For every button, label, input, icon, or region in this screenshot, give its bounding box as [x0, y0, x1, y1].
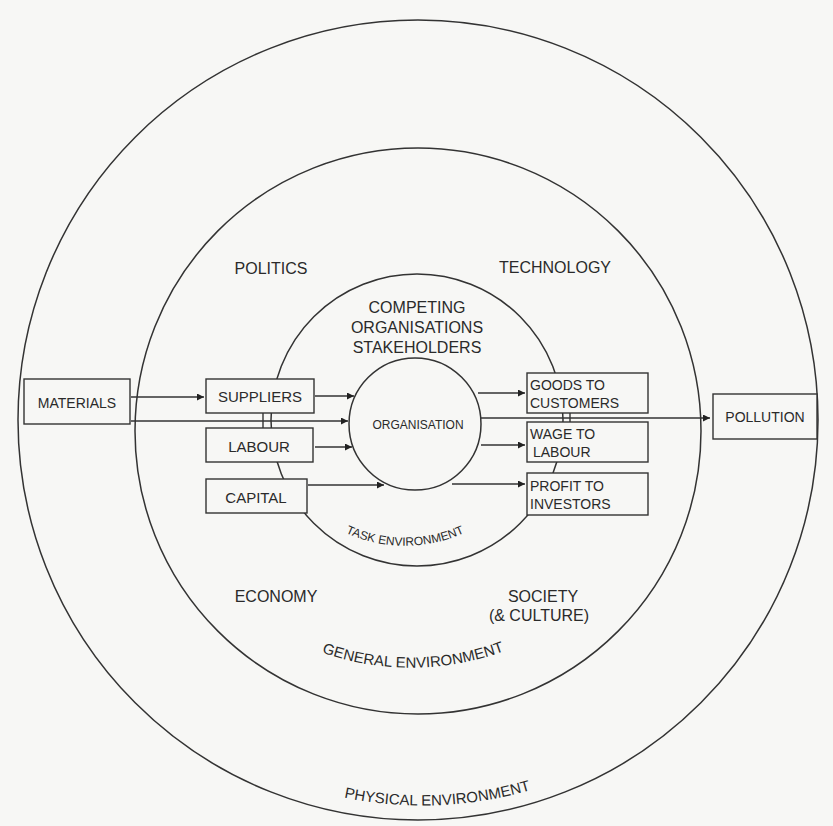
svg-text:MATERIALS: MATERIALS: [38, 395, 116, 411]
svg-text:WAGE TO: WAGE TO: [530, 426, 595, 442]
profit-to-investors-box: PROFIT TO INVESTORS: [527, 473, 648, 515]
svg-text:INVESTORS: INVESTORS: [530, 496, 611, 512]
pollution-box: POLLUTION: [713, 394, 817, 439]
svg-text:CAPITAL: CAPITAL: [225, 489, 286, 506]
organisation-label: ORGANISATION: [372, 418, 463, 432]
organisation-environment-diagram: MATERIALS SUPPLIERS LABOUR CAPITAL GOODS…: [0, 0, 833, 826]
task-factor-competing: COMPETING: [369, 299, 466, 316]
wage-to-labour-box: WAGE TO LABOUR: [527, 422, 648, 462]
materials-box: MATERIALS: [24, 379, 130, 424]
goods-to-customers-box: GOODS TO CUSTOMERS: [527, 373, 648, 413]
general-factor-society: SOCIETY: [508, 588, 579, 605]
svg-text:GOODS TO: GOODS TO: [530, 377, 605, 393]
svg-text:LABOUR: LABOUR: [533, 444, 591, 460]
physical-environment-label: PHYSICAL ENVIRONMENT: [343, 776, 531, 808]
general-factor-culture: (& CULTURE): [489, 607, 589, 624]
task-environment-label: TASK ENVIRONMENT: [344, 522, 466, 548]
task-factor-stakeholders: STAKEHOLDERS: [353, 339, 482, 356]
svg-text:PROFIT TO: PROFIT TO: [530, 478, 604, 494]
capital-box: CAPITAL: [206, 479, 307, 513]
general-factor-politics: POLITICS: [235, 260, 308, 277]
general-factor-technology: TECHNOLOGY: [499, 259, 611, 276]
svg-text:LABOUR: LABOUR: [228, 438, 290, 455]
labour-box: LABOUR: [206, 428, 313, 462]
general-environment-label: GENERAL ENVIRONMENT: [321, 638, 506, 671]
svg-text:POLLUTION: POLLUTION: [725, 409, 804, 425]
svg-text:SUPPLIERS: SUPPLIERS: [218, 388, 302, 405]
svg-text:CUSTOMERS: CUSTOMERS: [530, 395, 619, 411]
suppliers-box: SUPPLIERS: [206, 379, 314, 413]
task-factor-organisations: ORGANISATIONS: [351, 319, 483, 336]
general-factor-economy: ECONOMY: [235, 588, 318, 605]
